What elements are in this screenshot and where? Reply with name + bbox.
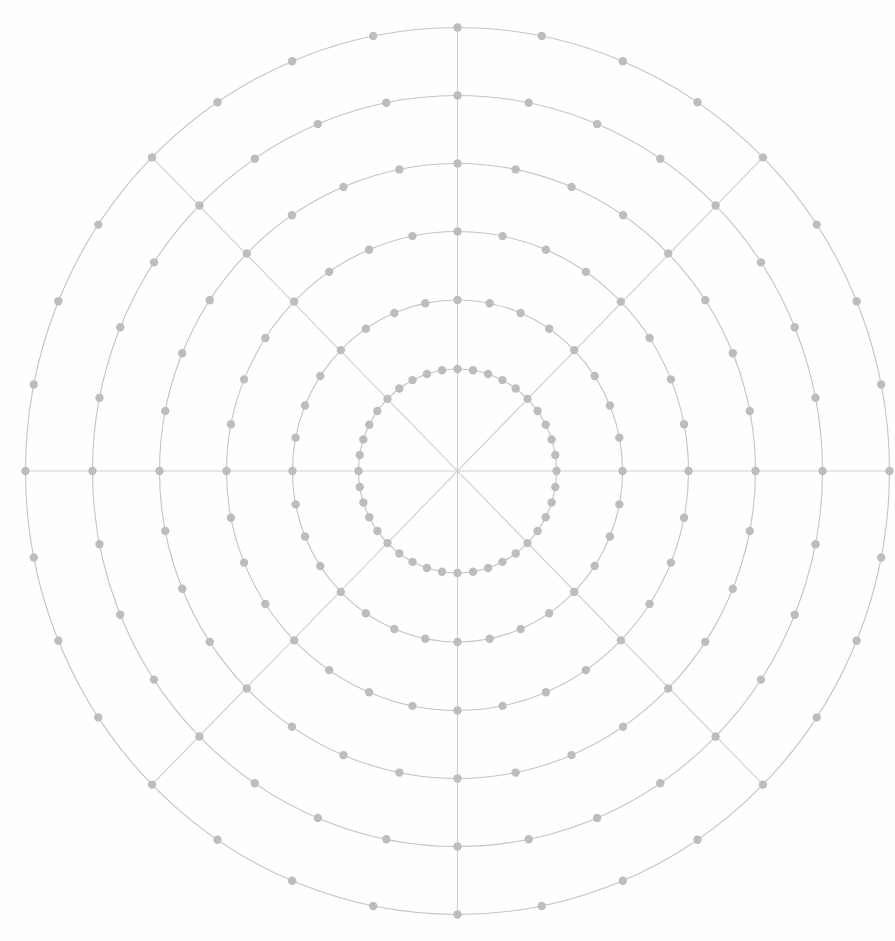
ring-dot xyxy=(261,334,269,342)
ring-dot xyxy=(369,32,377,40)
ring-dot xyxy=(408,376,416,384)
ring-dot xyxy=(567,751,575,759)
ring-dot xyxy=(161,527,169,535)
ring-dot xyxy=(538,32,546,40)
ring-dot xyxy=(757,258,765,266)
ring-dot xyxy=(551,483,559,491)
ring-dot xyxy=(395,384,403,392)
ring-dot xyxy=(533,407,541,415)
ring-dot xyxy=(684,467,692,475)
ring-dot xyxy=(751,467,759,475)
ring-dot xyxy=(667,558,675,566)
ring-dot xyxy=(590,372,598,380)
ring-dot xyxy=(484,564,492,572)
ring-dot xyxy=(523,539,531,547)
ring-dot xyxy=(213,836,221,844)
ring-dot xyxy=(680,420,688,428)
ring-dot xyxy=(251,779,259,787)
ring-dot xyxy=(314,814,322,822)
ring-dot xyxy=(316,562,324,570)
ring-dot xyxy=(395,549,403,557)
ring-dot xyxy=(885,467,893,475)
ring-dot xyxy=(729,349,737,357)
ring-dot xyxy=(759,153,767,161)
ring-dot xyxy=(711,732,719,740)
ring-dot xyxy=(498,558,506,566)
ring-dot xyxy=(811,394,819,402)
ring-dot xyxy=(423,564,431,572)
ring-dot xyxy=(227,514,235,522)
ring-dot xyxy=(615,433,623,441)
ring-dot xyxy=(325,666,333,674)
ring-dot xyxy=(511,768,519,776)
ring-dot xyxy=(542,513,550,521)
ring-dot xyxy=(95,394,103,402)
ring-dot xyxy=(155,467,163,475)
ring-dot xyxy=(852,637,860,645)
ring-dot xyxy=(316,372,324,380)
ring-dot xyxy=(606,401,614,409)
ring-dot xyxy=(421,299,429,307)
ring-dot xyxy=(195,201,203,209)
ring-dot xyxy=(150,258,158,266)
ring-dot xyxy=(390,625,398,633)
ring-dot xyxy=(812,220,820,228)
ring-dot xyxy=(729,584,737,592)
ring-dot xyxy=(339,183,347,191)
ring-dot xyxy=(680,514,688,522)
ring-dot xyxy=(664,249,672,257)
ring-dot xyxy=(877,553,885,561)
ring-dot xyxy=(693,836,701,844)
ring-dot xyxy=(206,296,214,304)
ring-dot xyxy=(701,296,709,304)
ring-dot xyxy=(619,722,627,730)
ring-dot xyxy=(390,309,398,317)
ring-dot xyxy=(314,120,322,128)
ring-dot xyxy=(359,498,367,506)
ring-dot xyxy=(373,407,381,415)
ring-dot xyxy=(619,211,627,219)
ring-dot xyxy=(148,153,156,161)
ring-dot xyxy=(453,23,461,31)
ring-dot xyxy=(453,159,461,167)
ring-dot xyxy=(382,835,390,843)
ring-dot xyxy=(498,376,506,384)
ring-dot xyxy=(359,435,367,443)
ring-dot xyxy=(408,232,416,240)
ring-dot xyxy=(21,467,29,475)
ring-dot xyxy=(365,246,373,254)
ring-dot xyxy=(511,549,519,557)
ring-dot xyxy=(693,98,701,106)
ring-dot xyxy=(54,297,62,305)
ring-dot xyxy=(54,637,62,645)
ring-dot xyxy=(373,527,381,535)
ring-dot xyxy=(545,609,553,617)
ring-dot xyxy=(291,433,299,441)
ring-dot xyxy=(645,334,653,342)
ring-dot xyxy=(593,814,601,822)
ring-dot xyxy=(161,407,169,415)
ring-dot xyxy=(88,467,96,475)
ring-dot xyxy=(453,227,461,235)
ring-dot xyxy=(339,751,347,759)
ring-dot xyxy=(395,768,403,776)
ring-dot xyxy=(423,370,431,378)
ring-dot xyxy=(469,366,477,374)
ring-dot xyxy=(30,380,38,388)
ring-dot xyxy=(711,201,719,209)
ring-dot xyxy=(291,500,299,508)
ring-dot xyxy=(542,688,550,696)
ring-dot xyxy=(538,902,546,910)
ring-dot xyxy=(701,638,709,646)
ring-dot xyxy=(811,540,819,548)
ring-dot xyxy=(453,569,461,577)
ring-dot xyxy=(619,877,627,885)
ring-dot xyxy=(251,155,259,163)
ring-dot xyxy=(667,375,675,383)
ring-dot xyxy=(94,713,102,721)
ring-dot xyxy=(148,780,156,788)
ring-dot xyxy=(617,636,625,644)
ring-dot xyxy=(453,638,461,646)
ring-dot xyxy=(288,211,296,219)
ring-dot xyxy=(365,420,373,428)
